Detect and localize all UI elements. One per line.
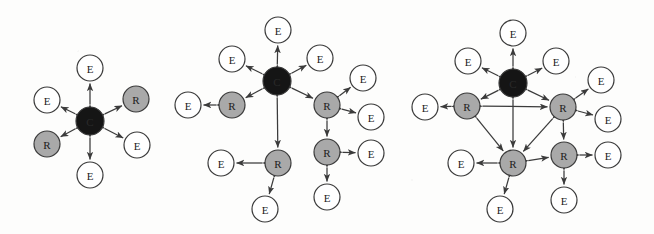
node-edge-p1-e2[interactable]: E	[34, 87, 60, 113]
link-p2-c-to-p2-r2	[292, 88, 313, 98]
link-p3-r3-to-p3-r4	[528, 157, 548, 160]
link-p3-c-to-p3-r1	[481, 90, 498, 99]
node-edge-p2-e7[interactable]: E	[358, 140, 384, 166]
node-circle	[77, 55, 103, 81]
link-p2-r4-to-p2-e10	[269, 178, 274, 194]
node-circle	[219, 92, 245, 118]
link-p3-c-to-p3-r2	[528, 90, 549, 100]
node-edge-p3-e2[interactable]: E	[455, 48, 481, 74]
node-edge-p1-e4[interactable]: E	[77, 162, 103, 188]
node-circle	[595, 142, 621, 168]
node-relay-p3-r4[interactable]: R	[551, 142, 577, 168]
node-circle	[263, 67, 291, 95]
node-edge-p3-e1[interactable]: E	[500, 20, 526, 46]
topology-small-nodes: CEERREE	[34, 55, 150, 188]
node-circle	[307, 45, 333, 71]
node-circle	[358, 140, 384, 166]
node-circle	[500, 150, 526, 176]
link-p2-r2-to-p2-e6	[342, 109, 356, 113]
link-p3-r3-to-p3-e8	[504, 178, 509, 194]
link-p3-r2-to-p3-e5	[576, 89, 589, 98]
node-circle	[595, 106, 621, 132]
node-edge-p2-e2[interactable]: E	[219, 46, 245, 72]
link-p2-c-to-p2-e3	[292, 65, 307, 73]
node-circle	[252, 196, 278, 222]
node-circle	[455, 48, 481, 74]
node-edge-p2-e4[interactable]: E	[175, 92, 201, 118]
link-p2-r2-to-p2-e5	[339, 87, 350, 95]
node-circle	[314, 92, 340, 118]
node-circle	[314, 184, 340, 210]
link-p2-c-to-p2-e2	[246, 66, 262, 74]
node-circle	[34, 131, 60, 157]
node-relay-p2-r2[interactable]: R	[314, 92, 340, 118]
node-circle	[314, 139, 340, 165]
node-core-p1-c[interactable]: C	[76, 107, 104, 135]
node-circle	[123, 86, 149, 112]
node-circle	[500, 20, 526, 46]
node-edge-p3-e10[interactable]: E	[551, 187, 577, 213]
link-p1-c-to-p1-r1	[105, 106, 122, 114]
node-edge-p2-e1[interactable]: E	[265, 17, 291, 43]
link-p3-r1-to-p3-r3	[477, 118, 504, 151]
node-circle	[551, 142, 577, 168]
node-edge-p3-e7[interactable]: E	[448, 150, 474, 176]
node-relay-p2-r4[interactable]: R	[265, 150, 291, 176]
node-circle	[124, 132, 150, 158]
node-core-p2-c[interactable]: C	[263, 67, 291, 95]
node-circle	[76, 107, 104, 135]
node-circle	[350, 65, 376, 91]
node-circle	[412, 94, 438, 120]
link-p3-r2-to-p3-r3	[523, 119, 552, 152]
node-edge-p1-e3[interactable]: E	[124, 132, 150, 158]
node-circle	[34, 87, 60, 113]
node-circle	[551, 187, 577, 213]
nodes-layer: CEERREECEEEREREEREEREECEEEREREEREEREE	[34, 17, 621, 222]
node-edge-p3-e8[interactable]: E	[487, 196, 513, 222]
node-edge-p3-e4[interactable]: E	[412, 94, 438, 120]
node-relay-p1-r2[interactable]: R	[34, 131, 60, 157]
link-p3-c-to-p3-e2	[482, 68, 498, 76]
node-circle	[454, 93, 480, 119]
node-circle	[77, 162, 103, 188]
link-p1-c-to-p1-r2	[61, 129, 76, 137]
node-edge-p2-e8[interactable]: E	[314, 184, 340, 210]
node-circle	[448, 150, 474, 176]
node-edge-p2-e5[interactable]: E	[350, 65, 376, 91]
node-circle	[265, 17, 291, 43]
node-circle	[175, 92, 201, 118]
link-p1-c-to-p1-e2	[61, 107, 75, 114]
topology-large-nodes: CEEEREREEREEREE	[412, 20, 621, 222]
node-circle	[499, 69, 527, 97]
node-relay-p2-r1[interactable]: R	[219, 92, 245, 118]
node-circle	[208, 150, 234, 176]
node-edge-p3-e9[interactable]: E	[595, 142, 621, 168]
node-relay-p1-r1[interactable]: R	[123, 86, 149, 112]
node-edge-p3-e5[interactable]: E	[588, 67, 614, 93]
link-p2-c-to-p2-r1	[246, 89, 263, 98]
node-relay-p3-r1[interactable]: R	[454, 93, 480, 119]
node-edge-p2-e6[interactable]: E	[358, 104, 384, 130]
node-relay-p2-r3[interactable]: R	[314, 139, 340, 165]
node-edge-p3-e6[interactable]: E	[595, 106, 621, 132]
node-circle	[265, 150, 291, 176]
figure-canvas: CEERREECEEEREREEREEREECEEEREREEREEREE	[0, 0, 654, 234]
node-edge-p3-e3[interactable]: E	[543, 48, 569, 74]
link-p3-c-to-p3-e3	[528, 68, 543, 75]
node-edge-p2-e3[interactable]: E	[307, 45, 333, 71]
node-core-p3-c[interactable]: C	[499, 69, 527, 97]
node-relay-p3-r2[interactable]: R	[550, 94, 576, 120]
node-circle	[358, 104, 384, 130]
node-relay-p3-r3[interactable]: R	[500, 150, 526, 176]
node-edge-p2-e9[interactable]: E	[208, 150, 234, 176]
link-p3-r2-to-p3-e6	[578, 111, 593, 115]
node-circle	[588, 67, 614, 93]
node-edge-p2-e10[interactable]: E	[252, 196, 278, 222]
link-p3-r1-to-p3-r2	[483, 106, 548, 107]
network-diagram-svg: CEERREECEEEREREEREEREECEEEREREEREEREE	[0, 0, 654, 234]
link-p2-c-to-p2-r4	[277, 98, 278, 148]
link-p1-c-to-p1-e3	[105, 129, 124, 138]
node-circle	[543, 48, 569, 74]
node-circle	[219, 46, 245, 72]
node-edge-p1-e1[interactable]: E	[77, 55, 103, 81]
